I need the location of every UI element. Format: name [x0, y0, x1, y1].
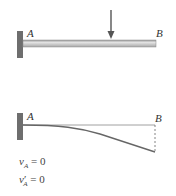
fixed-wall-support	[17, 31, 23, 58]
loaded-beam-diagram: A B	[17, 10, 163, 58]
beam	[23, 40, 156, 47]
boundary-condition-deflection: vA = 0	[19, 155, 46, 170]
deflection-curve	[23, 125, 155, 152]
diagram-canvas: A B A B vA = 0 v′A = 0	[0, 0, 176, 196]
boundary-condition-slope: v′A = 0	[19, 173, 45, 188]
label-a-bottom: A	[26, 110, 34, 122]
label-a-top: A	[26, 27, 34, 39]
label-b-bottom: B	[155, 112, 162, 124]
load-arrow-icon	[108, 10, 115, 39]
label-b-top: B	[156, 27, 163, 39]
deflection-diagram: A B vA = 0 v′A = 0	[17, 110, 162, 188]
fixed-wall-support	[17, 113, 23, 140]
